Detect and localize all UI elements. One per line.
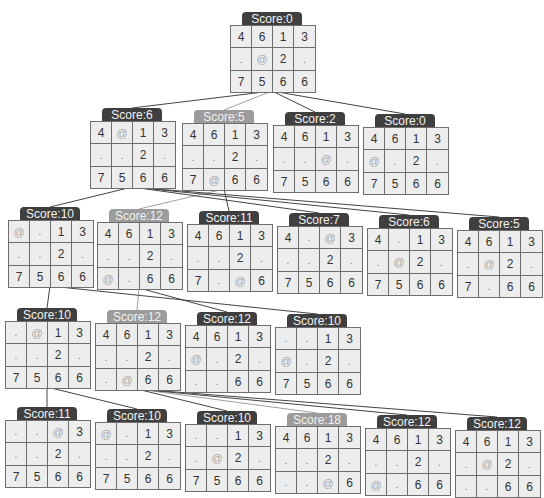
value-cell: 6 [406, 173, 427, 194]
empty-cell: . [249, 447, 270, 470]
value-cell: 6 [500, 276, 521, 297]
empty-cell: . [339, 350, 360, 373]
value-cell: 6 [385, 128, 406, 150]
value-cell: 6 [48, 466, 69, 487]
value-cell: 5 [207, 470, 228, 491]
agent-cell: @ [318, 472, 339, 493]
value-cell: 6 [72, 266, 93, 287]
value-cell: 1 [410, 229, 431, 251]
board-grid: 4613.@2.7566 [230, 25, 316, 93]
empty-cell: . [27, 421, 48, 443]
value-cell: 4 [278, 227, 299, 249]
value-cell: 6 [295, 126, 316, 148]
value-cell: 3 [72, 221, 93, 243]
empty-cell: . [297, 472, 318, 493]
value-cell: 7 [278, 272, 299, 293]
value-cell: 4 [98, 223, 119, 245]
value-cell: 6 [297, 427, 318, 449]
empty-cell: . [119, 245, 140, 268]
value-cell: 6 [341, 272, 362, 293]
value-cell: 2 [48, 443, 69, 466]
empty-cell: . [276, 472, 297, 493]
value-cell: 2 [408, 451, 429, 474]
value-cell: 6 [249, 371, 270, 392]
agent-cell: @ [477, 453, 498, 476]
value-cell: 1 [228, 326, 249, 348]
empty-cell: . [521, 253, 542, 276]
empty-cell: . [117, 346, 138, 369]
value-cell: 2 [133, 144, 154, 167]
value-cell: 7 [96, 468, 117, 489]
empty-cell: . [295, 148, 316, 171]
empty-cell: . [6, 443, 27, 466]
empty-cell: . [119, 268, 140, 289]
board-grid: 4613..2.@.66 [97, 222, 183, 290]
empty-cell: . [246, 146, 267, 169]
tree-edge [272, 91, 405, 114]
value-cell: 5 [117, 468, 138, 489]
value-cell: 4 [231, 26, 252, 48]
board-grid: 4613..@.7566 [273, 125, 359, 193]
empty-cell: . [389, 229, 410, 251]
agent-cell: @ [27, 322, 48, 344]
empty-cell: . [337, 148, 358, 171]
tree-edge [224, 189, 229, 211]
empty-cell: . [368, 251, 389, 274]
empty-cell: . [209, 270, 230, 291]
empty-cell: . [27, 443, 48, 466]
empty-cell: . [387, 451, 408, 474]
empty-cell: . [276, 449, 297, 472]
value-cell: 5 [27, 466, 48, 487]
empty-cell: . [96, 369, 117, 390]
empty-cell: . [207, 371, 228, 392]
empty-cell: . [117, 423, 138, 445]
empty-cell: . [385, 150, 406, 173]
value-cell: 6 [138, 369, 159, 390]
agent-cell: @ [204, 169, 225, 190]
value-cell: 6 [410, 274, 431, 295]
value-cell: 2 [51, 243, 72, 266]
value-cell: 7 [368, 274, 389, 295]
agent-cell: @ [207, 447, 228, 470]
empty-cell: . [186, 371, 207, 392]
empty-cell: . [387, 474, 408, 495]
tree-edge [139, 189, 224, 209]
value-cell: 6 [252, 26, 273, 48]
empty-cell: . [186, 425, 207, 447]
value-cell: 7 [186, 470, 207, 491]
value-cell: 3 [69, 322, 90, 344]
value-cell: 2 [410, 251, 431, 274]
value-cell: 5 [295, 171, 316, 192]
agent-cell: @ [230, 270, 251, 291]
empty-cell: . [96, 346, 117, 369]
empty-cell: . [299, 249, 320, 272]
value-cell: 6 [387, 429, 408, 451]
value-cell: 3 [519, 431, 540, 453]
tree-edge [50, 187, 132, 207]
value-cell: 4 [96, 324, 117, 346]
value-cell: 6 [133, 167, 154, 188]
value-cell: 6 [431, 274, 452, 295]
agent-cell: @ [112, 122, 133, 144]
empty-cell: . [186, 447, 207, 470]
value-cell: 2 [498, 453, 519, 476]
value-cell: 5 [27, 367, 48, 388]
value-cell: 2 [48, 344, 69, 367]
value-cell: 1 [225, 124, 246, 146]
value-cell: 6 [117, 324, 138, 346]
agent-cell: @ [117, 369, 138, 390]
value-cell: 5 [389, 274, 410, 295]
value-cell: 6 [479, 231, 500, 253]
value-cell: 1 [318, 328, 339, 350]
value-cell: 5 [299, 272, 320, 293]
value-cell: 6 [339, 472, 360, 493]
board-grid: @.13..2.7566 [8, 220, 94, 288]
tree-edge [47, 286, 50, 308]
value-cell: 7 [6, 367, 27, 388]
value-cell: 3 [159, 324, 180, 346]
empty-cell: . [91, 144, 112, 167]
value-cell: 6 [249, 470, 270, 491]
empty-cell: . [276, 328, 297, 350]
empty-cell: . [183, 146, 204, 169]
value-cell: 6 [161, 268, 182, 289]
